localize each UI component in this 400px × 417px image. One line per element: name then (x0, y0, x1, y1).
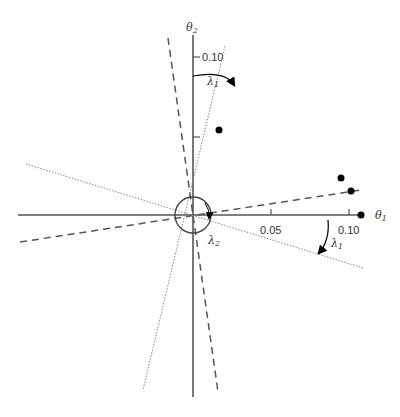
dotted-lines (26, 46, 363, 390)
x-tick-label-0.05: 0.05 (260, 225, 281, 236)
x-ticks (271, 209, 349, 215)
data-point (338, 175, 345, 182)
lambda1-right-label: λ1 (331, 238, 343, 251)
lambda1-right-arc (319, 220, 328, 253)
theta2-axis-label: θ2 (186, 22, 198, 35)
diagram-svg (0, 0, 400, 417)
data-point (358, 212, 365, 219)
x-tick-label-0.10: 0.10 (338, 225, 359, 236)
lambda1-top-label: λ1 (207, 76, 219, 89)
y-tick-label-0.10: 0.10 (202, 52, 223, 63)
data-points (216, 127, 365, 219)
data-point (348, 188, 355, 195)
theta1-axis-label: θ1 (375, 210, 387, 223)
y-ticks (193, 57, 200, 137)
data-point (216, 127, 223, 134)
lambda2-label: λ2 (208, 235, 220, 248)
diagram-canvas: θ2 θ1 0.10 0.05 0.10 λ1 λ1 λ2 (0, 0, 400, 417)
